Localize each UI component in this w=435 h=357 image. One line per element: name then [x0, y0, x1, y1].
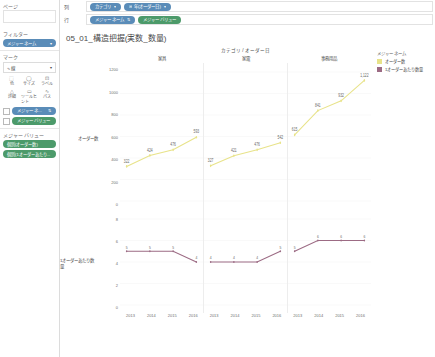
- xtick: 2014: [231, 313, 240, 318]
- ytick: 2: [116, 283, 118, 288]
- svg-text:6: 6: [363, 235, 365, 239]
- pill-year-order-date[interactable]: ⊞ 年(オーダー日) ▾: [124, 3, 171, 11]
- xtick: 2014: [147, 313, 156, 318]
- marks-button-size[interactable]: ◯ サイズ: [21, 76, 39, 86]
- pill-measure-names[interactable]: メジャー ネーム ⇅: [90, 16, 135, 24]
- marks-pill-row-color: メジャー ネ... ⇅: [3, 107, 56, 115]
- svg-text:327: 327: [208, 157, 214, 163]
- x-ticks-jimuyohin: 2013 2014 2015 2016: [287, 313, 371, 318]
- svg-text:322: 322: [124, 158, 130, 164]
- workspace-body: フィルター メジャー ネーム ▾ マーク ∿ 線 ▾ ⬚ 色: [0, 28, 435, 357]
- measure-value-item-qty-per-order[interactable]: 個別(1オーダーあたり...: [3, 150, 56, 158]
- svg-text:542: 542: [278, 134, 284, 140]
- marks-button-path-label: パス: [43, 95, 51, 99]
- chart-pane-qty-kaden[interactable]: 4445: [203, 213, 287, 313]
- y-axis-orders: 1200 1000 800 600 400 200 0: [100, 63, 120, 213]
- pill-category[interactable]: カテゴリ ▾: [90, 3, 121, 11]
- chart-pane-orders-jimuyohin[interactable]: 6158419321,122: [287, 63, 371, 213]
- measure-value-item-orders[interactable]: 個別(オーダー数): [3, 140, 56, 148]
- svg-text:5: 5: [294, 245, 296, 249]
- marks-button-detail[interactable]: △ 詳細: [3, 89, 21, 104]
- marks-pill-measure-names-label: メジャー ネ...: [17, 107, 42, 115]
- filter-pill-measure-names[interactable]: メジャー ネーム ▾: [3, 39, 56, 47]
- rows-label: 行: [60, 16, 86, 23]
- xtick: 2013: [210, 313, 219, 318]
- marks-button-tooltip-label: ツールヒント: [21, 95, 39, 104]
- svg-text:4: 4: [195, 256, 197, 260]
- row-title-orders: オーダー数: [60, 63, 100, 213]
- legend-label-qty: 1オーダーあたり数量: [385, 66, 423, 72]
- category-header-kagu-label: 家具: [120, 54, 204, 63]
- category-header-jimuyohin[interactable]: 事務用品: [287, 54, 371, 63]
- x-tick-groups: 2013 2014 2015 2016 2013 2014 2015 2016: [120, 313, 371, 318]
- ytick: 6: [116, 239, 118, 244]
- tableau-window: ページ 列 カテゴリ ▾ ⊞ 年(オーダー日) ▾: [0, 0, 435, 357]
- marks-button-color[interactable]: ⬚ 色: [3, 76, 21, 86]
- column-header-top: カテゴリ / オーダー日 カテゴリ / オーダー日 カテゴリ / オーダー日: [60, 46, 371, 54]
- legend-item-qty[interactable]: 1オーダーあたり数量: [377, 66, 433, 72]
- viz-pane: 05_01_構造把握(実数_数量) カテゴリ / オーダー日 カテゴリ / オー…: [60, 28, 435, 357]
- svg-text:421: 421: [231, 147, 237, 153]
- columns-label: 列: [60, 3, 86, 10]
- panes-qty: 5554 4445 5666: [120, 213, 371, 313]
- columns-shelf[interactable]: カテゴリ ▾ ⊞ 年(オーダー日) ▾: [86, 1, 433, 12]
- chart-pane-orders-kagu[interactable]: 322424476593: [120, 63, 203, 213]
- ytick: 800: [111, 112, 118, 117]
- category-headers: 家具 家電 事務用品: [120, 54, 371, 63]
- plus-box-icon: ⊞: [129, 3, 132, 11]
- filters-card: フィルター メジャー ネーム ▾: [0, 28, 59, 51]
- svg-text:5: 5: [149, 245, 151, 249]
- columns-rows-shelves: 列 カテゴリ ▾ ⊞ 年(オーダー日) ▾ 行: [60, 0, 435, 28]
- category-header-kagu[interactable]: 家具: [120, 54, 204, 63]
- rows-shelf-row: 行 メジャー ネーム ⇅ メジャー バリュー: [60, 13, 435, 26]
- svg-text:1,122: 1,122: [360, 72, 368, 78]
- category-header-kaden[interactable]: 家電: [204, 54, 288, 63]
- marks-pill-measure-values[interactable]: メジャー バリュー: [12, 117, 56, 125]
- marks-pill-measure-names[interactable]: メジャー ネ... ⇅: [12, 107, 56, 115]
- chart-pane-qty-kagu[interactable]: 5554: [120, 213, 203, 313]
- plot-area: カテゴリ / オーダー日 カテゴリ / オーダー日 カテゴリ / オーダー日: [60, 46, 373, 357]
- ytick: 4: [116, 261, 118, 266]
- marks-type-dropdown[interactable]: ∿ 線 ▾: [3, 62, 56, 73]
- marks-pill-row-label: メジャー バリュー: [3, 117, 56, 125]
- y-axis-qty: 8 6 4 2 0: [100, 213, 120, 313]
- subheader-gutter-axis: [100, 54, 120, 63]
- row-band-qty: 1オーダーあたり数量 8 6 4 2 0 5554 4445 5666: [60, 213, 371, 313]
- marks-button-tooltip[interactable]: ▭ ツールヒント: [21, 89, 39, 104]
- pages-shelf-dropzone[interactable]: [3, 10, 56, 23]
- xtick: 2016: [189, 313, 198, 318]
- svg-text:4: 4: [256, 256, 258, 260]
- xaxis-gutter-axis: [100, 313, 120, 318]
- pill-measure-values[interactable]: メジャー バリュー: [138, 16, 181, 24]
- marks-button-label-label: ラベル: [41, 82, 53, 86]
- svg-text:5: 5: [279, 245, 281, 249]
- row-band-orders: オーダー数 1200 1000 800 600 400 200 0 322424…: [60, 63, 371, 213]
- marks-button-path[interactable]: ∿ パス: [38, 89, 56, 104]
- pages-label: ページ: [0, 0, 59, 10]
- svg-text:4: 4: [233, 256, 235, 260]
- left-cards-column: フィルター メジャー ネーム ▾ マーク ∿ 線 ▾ ⬚ 色: [0, 28, 60, 357]
- marks-label: マーク: [3, 53, 56, 60]
- chart-pane-orders-kaden[interactable]: 327421476542: [203, 63, 287, 213]
- svg-text:476: 476: [170, 141, 176, 147]
- marks-button-label[interactable]: ⊡ ラベル: [38, 76, 56, 86]
- ytick: 200: [111, 179, 118, 184]
- column-header-label: カテゴリ / オーダー日: [204, 46, 288, 54]
- marks-button-color-label: 色: [10, 82, 14, 86]
- column-header-pane-3: カテゴリ / オーダー日: [287, 46, 371, 54]
- xtick: 2016: [356, 313, 365, 318]
- pill-year-order-date-label: 年(オーダー日): [134, 3, 161, 11]
- row-title-qty: 1オーダーあたり数量: [60, 213, 100, 313]
- color-swatch-icon: [3, 108, 10, 115]
- rows-shelf[interactable]: メジャー ネーム ⇅ メジャー バリュー: [86, 14, 433, 25]
- marks-button-size-label: サイズ: [23, 82, 35, 86]
- filter-pill-label: メジャー ネーム: [7, 40, 36, 46]
- xtick: 2015: [251, 313, 260, 318]
- subheader-gutter-rowlabels: [60, 54, 100, 63]
- header-gutter-rowlabels: [60, 46, 100, 54]
- svg-text:424: 424: [147, 147, 153, 153]
- xtick: 2015: [168, 313, 177, 318]
- marks-type-value: ∿ 線: [7, 65, 15, 71]
- chart-pane-qty-jimuyohin[interactable]: 5666: [287, 213, 371, 313]
- legend-item-orders[interactable]: オーダー数: [377, 58, 433, 64]
